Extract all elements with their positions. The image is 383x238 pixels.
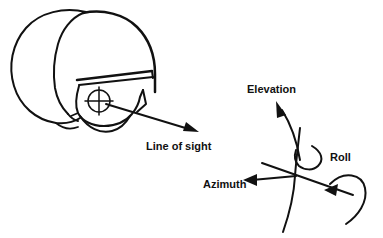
azimuth-roll-axis (262, 163, 353, 195)
head-outline (11, 10, 86, 123)
chin-strap (71, 113, 78, 116)
elevation-arrowhead (276, 101, 286, 118)
mask-chin-curve (80, 116, 130, 132)
label-line-of-sight: Line of sight (146, 140, 212, 152)
label-azimuth: Azimuth (203, 178, 247, 190)
azimuth-arrow-shaft (252, 176, 296, 180)
roll-loop (330, 175, 366, 224)
label-elevation: Elevation (247, 83, 296, 95)
reticle (85, 87, 113, 115)
angular-axes (243, 101, 366, 232)
helmet-shell-front (54, 13, 83, 114)
line-of-sight-arrowhead (183, 122, 199, 132)
line-of-sight-shaft (106, 104, 192, 130)
helmeted-head-profile (11, 10, 155, 132)
visor-bar-end (152, 71, 153, 78)
figure-canvas: Line of sight Elevation Azimuth Roll (0, 0, 383, 238)
label-roll: Roll (330, 151, 351, 163)
diagram-svg: Line of sight Elevation Azimuth Roll (0, 0, 383, 238)
